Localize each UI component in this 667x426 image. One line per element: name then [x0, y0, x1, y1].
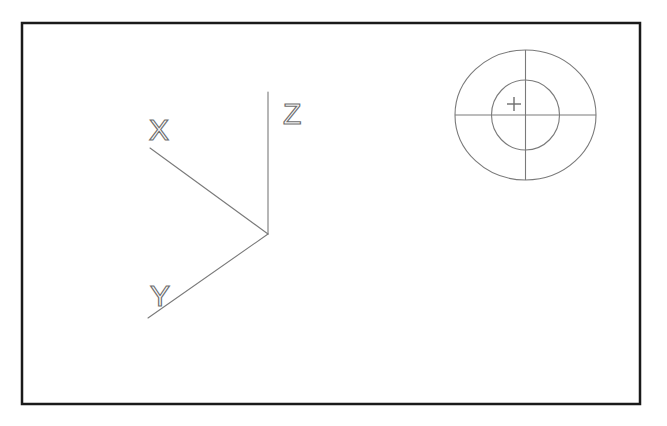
axis-line-x	[150, 148, 268, 234]
axis-label-x: X	[149, 113, 169, 146]
coordinate-axis-indicator[interactable]: X Y Z	[148, 92, 301, 318]
concentric-target-symbol[interactable]	[455, 50, 596, 180]
drawing-frame-border	[22, 23, 640, 404]
plus-mark-icon	[507, 97, 521, 111]
drawing-canvas[interactable]: X Y Z	[0, 0, 667, 426]
drawing-sheet: X Y Z	[0, 0, 667, 426]
axis-label-y: Y	[150, 279, 170, 312]
axis-label-z: Z	[283, 97, 301, 130]
